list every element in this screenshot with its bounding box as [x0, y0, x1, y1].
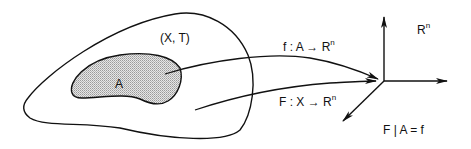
map-f-label: f : A → Rn — [283, 38, 335, 54]
space-label: (X, T) — [160, 31, 190, 45]
target-space-base: R — [417, 23, 426, 37]
map-f-text: f : A → R — [283, 40, 331, 54]
target-space-label: Rn — [417, 21, 430, 37]
extension-diagram: (X, T) A Rn f : A → Rn F : X → Rn F | A … — [0, 0, 471, 149]
subset-a-region — [71, 54, 181, 104]
map-F-sup: n — [332, 93, 336, 102]
map-f-sup: n — [330, 38, 334, 47]
rn-axes — [343, 17, 447, 121]
axis-down-left — [343, 81, 384, 121]
map-F-text: F : X → R — [279, 95, 332, 109]
map-F-label: F : X → Rn — [279, 93, 336, 109]
arrow-f — [165, 56, 378, 79]
target-space-sup: n — [426, 21, 430, 30]
restriction-label: F | A = f — [383, 123, 424, 137]
subset-label: A — [115, 77, 123, 91]
